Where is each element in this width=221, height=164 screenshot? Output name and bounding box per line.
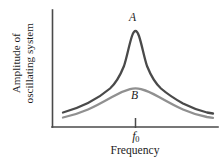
y-axis-label-line1: Amplitude of [10, 23, 23, 103]
y-axis-label-line2: oscillating system [23, 23, 36, 103]
x-axis-label: Frequency [52, 145, 218, 158]
resonance-curve-figure: Amplitude of oscillating system f0 Frequ… [0, 0, 221, 164]
curve-label-a: A [129, 11, 136, 24]
x-axis-tick-label-f0: f0 [120, 130, 152, 143]
y-axis-label: Amplitude of oscillating system [0, 0, 46, 127]
curve-label-b: B [131, 89, 138, 102]
